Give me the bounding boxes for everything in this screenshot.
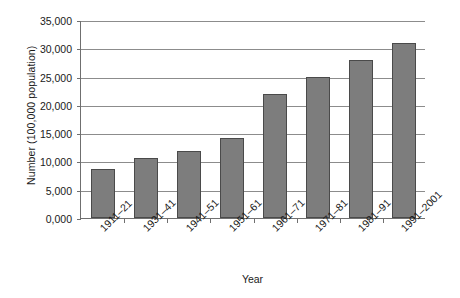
bar xyxy=(306,77,330,218)
x-axis-tick-mark xyxy=(383,218,384,223)
y-axis-tick-mark xyxy=(77,219,81,220)
y-axis-tick-label: 15,000 xyxy=(40,129,72,140)
y-axis-tick-mark xyxy=(77,134,81,135)
y-axis-tick-label: 35,000 xyxy=(40,16,72,27)
y-axis-tick-label: 20,000 xyxy=(40,101,72,112)
y-axis-tick-label: 25,000 xyxy=(40,72,72,83)
bar xyxy=(349,60,373,218)
y-axis-tick-label: 5,000 xyxy=(46,185,72,196)
bar xyxy=(392,43,416,218)
y-axis-tick-labels: 0,0005,00010,00015,00020,00025,00030,000… xyxy=(0,0,78,298)
x-axis-tick-mark xyxy=(210,218,211,223)
y-axis-tick-mark xyxy=(77,78,81,79)
bar xyxy=(263,94,287,218)
y-axis-tick-mark xyxy=(77,49,81,50)
y-axis-tick-mark xyxy=(77,106,81,107)
y-axis-tick-label: 30,000 xyxy=(40,44,72,55)
y-axis-tick-label: 0,000 xyxy=(46,214,72,225)
plot-area xyxy=(80,21,425,219)
bar-chart-figure: Number (100,000 population) 0,0005,00010… xyxy=(0,0,460,298)
x-axis-title: Year xyxy=(80,274,425,285)
x-axis-tick-mark xyxy=(340,218,341,223)
x-axis-tick-mark xyxy=(254,218,255,223)
y-axis-tick-mark xyxy=(77,191,81,192)
y-axis-tick-mark xyxy=(77,21,81,22)
x-axis-tick-mark xyxy=(297,218,298,223)
y-axis-tick-mark xyxy=(77,162,81,163)
x-axis-tick-mark xyxy=(167,218,168,223)
x-axis-tick-mark xyxy=(124,218,125,223)
bar xyxy=(177,151,201,218)
y-axis-tick-label: 10,000 xyxy=(40,157,72,168)
bar xyxy=(220,138,244,218)
bar-series xyxy=(81,21,425,218)
bar xyxy=(134,158,158,218)
